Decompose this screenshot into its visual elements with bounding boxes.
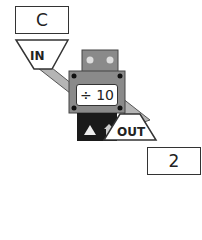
- eye-left: [87, 57, 94, 64]
- out-label: OUT: [117, 125, 145, 139]
- eye-right: [107, 57, 114, 64]
- in-label: IN: [30, 49, 45, 63]
- output-value-box[interactable]: 2: [147, 147, 201, 175]
- rule-display: ÷ 10: [76, 84, 118, 106]
